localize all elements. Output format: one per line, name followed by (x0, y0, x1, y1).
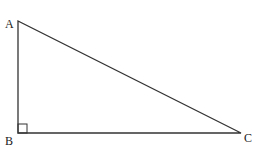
triangle-abc (18, 21, 241, 133)
vertex-label-c: C (244, 131, 252, 145)
vertex-label-a: A (5, 17, 14, 31)
vertex-label-b: B (5, 134, 13, 148)
right-angle-marker (18, 124, 27, 133)
triangle-diagram: A B C (0, 0, 262, 152)
